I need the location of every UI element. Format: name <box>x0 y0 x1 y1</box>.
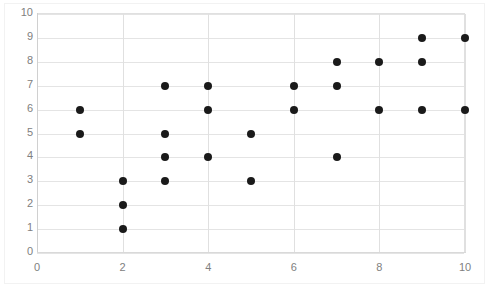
scatter-chart: 012345678910 0246810 <box>0 0 490 288</box>
x-axis-tick-labels: 0246810 <box>0 0 490 288</box>
x-tick-label-6: 6 <box>279 262 309 273</box>
x-tick-label-8: 8 <box>364 262 394 273</box>
x-tick-label-4: 4 <box>193 262 223 273</box>
x-tick-label-0: 0 <box>22 262 52 273</box>
x-tick-label-10: 10 <box>450 262 480 273</box>
x-tick-label-2: 2 <box>108 262 138 273</box>
